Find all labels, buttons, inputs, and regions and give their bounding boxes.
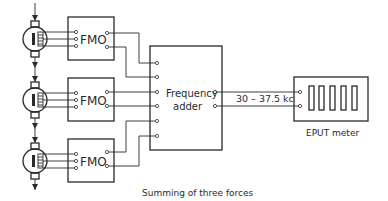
fmo-label-3: FMO <box>80 155 107 169</box>
fmo-label-1: FMO <box>80 33 107 47</box>
digit-5 <box>352 86 357 110</box>
fmo-block-1: FMO <box>68 17 114 60</box>
frequency-range-label: 30 – 37.5 kc <box>236 93 294 104</box>
diagram-caption: Summing of three forces <box>142 188 254 198</box>
digit-4 <box>341 86 346 110</box>
transducer-3 <box>23 128 75 190</box>
fmo-label-2: FMO <box>80 94 107 108</box>
fmo-block-2: FMO <box>68 78 114 121</box>
fmo-to-adder-wires <box>109 33 155 166</box>
transducer-1 <box>23 3 75 68</box>
eput-meter: EPUT meter <box>294 77 368 138</box>
adder-label-line2: adder <box>173 101 203 112</box>
frequency-adder-block: Frequency adder <box>150 46 222 150</box>
adder-to-meter-wires: 30 – 37.5 kc <box>217 92 299 106</box>
adder-label-line1: Frequency <box>166 88 218 99</box>
fmo-block-3: FMO <box>68 139 114 182</box>
eput-meter-label: EPUT meter <box>306 128 359 138</box>
digit-1 <box>309 86 314 110</box>
digit-2 <box>319 86 324 110</box>
digit-3 <box>330 86 335 110</box>
transducer-2 <box>23 66 75 129</box>
block-diagram: FMO FMO FMO Frequency <box>0 0 388 201</box>
